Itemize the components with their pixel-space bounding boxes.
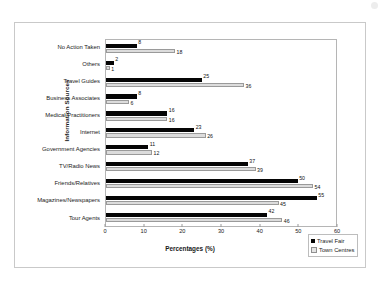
- bar-wrapper: 23: [106, 128, 336, 132]
- bar-value-label: 16: [169, 118, 175, 123]
- x-tick-label: 20: [179, 228, 185, 234]
- bar-value-label: 8: [138, 91, 141, 96]
- category-label: Travel Guides: [29, 73, 103, 90]
- legend-item[interactable]: Travel Fair: [311, 237, 354, 246]
- bar-group: 2326: [106, 125, 336, 142]
- bar-value-label: 37: [249, 159, 255, 164]
- bar-value-label: 26: [207, 134, 213, 139]
- bar-travel-fair: [106, 44, 137, 48]
- bar-wrapper: 8: [106, 44, 336, 48]
- bar-wrapper: 16: [106, 117, 336, 121]
- category-label: No Action Taken: [29, 39, 103, 56]
- bar-wrapper: 46: [106, 218, 336, 222]
- bar-value-label: 46: [284, 219, 290, 224]
- x-tick-label: 50: [295, 228, 301, 234]
- x-tick-mark: [337, 224, 338, 227]
- legend-item[interactable]: Town Centres: [311, 246, 354, 255]
- bar-town-centres: [106, 66, 110, 70]
- legend-label: Travel Fair: [317, 237, 344, 246]
- bar-town-centres: [106, 83, 244, 87]
- category-label: Tour Agents: [29, 210, 103, 227]
- legend-swatch-travel-fair: [311, 239, 315, 243]
- bar-travel-fair: [106, 162, 248, 166]
- x-tick-mark: [298, 224, 299, 227]
- bar-group: 86: [106, 91, 336, 108]
- bar-travel-fair: [106, 145, 148, 149]
- bar-wrapper: 25: [106, 78, 336, 82]
- x-tick-label: 30: [218, 228, 224, 234]
- bar-wrapper: 26: [106, 133, 336, 137]
- category-label: Friends/Relatives: [29, 176, 103, 193]
- bar-town-centres: [106, 49, 175, 53]
- bar-town-centres: [106, 201, 279, 205]
- bar-wrapper: 11: [106, 145, 336, 149]
- bar-town-centres: [106, 167, 256, 171]
- plot-area: 818212536861616232611123739505455454246: [105, 39, 337, 227]
- bar-group: 818: [106, 40, 336, 57]
- bar-travel-fair: [106, 111, 167, 115]
- bar-travel-fair: [106, 61, 114, 65]
- x-tick-label: 40: [257, 228, 263, 234]
- bar-wrapper: 1: [106, 66, 336, 70]
- bar-wrapper: 45: [106, 201, 336, 205]
- x-tick-mark: [105, 224, 106, 227]
- bar-value-label: 54: [315, 185, 321, 190]
- x-tick-mark: [221, 224, 222, 227]
- bar-value-label: 11: [150, 142, 155, 147]
- bar-value-label: 45: [280, 202, 286, 207]
- bar-travel-fair: [106, 213, 267, 217]
- bar-group: 21: [106, 57, 336, 74]
- bar-value-label: 55: [318, 193, 324, 198]
- bar-travel-fair: [106, 94, 137, 98]
- bar-wrapper: 50: [106, 179, 336, 183]
- bar-value-label: 12: [154, 151, 160, 156]
- bar-group: 5545: [106, 192, 336, 209]
- corner-artifact: [371, 2, 378, 9]
- legend-swatch-town-centres: [311, 247, 317, 253]
- x-tick-label: 10: [141, 228, 147, 234]
- bar-value-label: 42: [269, 209, 275, 214]
- category-label: Others: [29, 56, 103, 73]
- chart-figure: Information Sources No Action TakenOther…: [14, 22, 366, 268]
- bar-value-label: 6: [131, 101, 134, 106]
- bar-group: 2536: [106, 74, 336, 91]
- bar-value-label: 2: [115, 57, 118, 62]
- bar-group: 1112: [106, 141, 336, 158]
- x-tick-mark: [143, 224, 144, 227]
- bar-town-centres: [106, 150, 152, 154]
- bar-value-label: 16: [169, 108, 175, 113]
- category-label: Business Associates: [29, 90, 103, 107]
- bar-value-label: 36: [246, 84, 252, 89]
- bar-wrapper: 54: [106, 184, 336, 188]
- bar-wrapper: 39: [106, 167, 336, 171]
- category-label: Magazines/Newspapers: [29, 193, 103, 210]
- bar-wrapper: 36: [106, 83, 336, 87]
- bar-rows: 818212536861616232611123739505455454246: [106, 40, 336, 226]
- bar-town-centres: [106, 117, 167, 121]
- bar-wrapper: 12: [106, 150, 336, 154]
- category-label: Government Agencies: [29, 142, 103, 159]
- bar-wrapper: 37: [106, 162, 336, 166]
- bar-wrapper: 8: [106, 94, 336, 98]
- bar-group: 3739: [106, 158, 336, 175]
- bar-travel-fair: [106, 179, 298, 183]
- bar-value-label: 1: [111, 67, 114, 72]
- bar-value-label: 23: [196, 125, 202, 130]
- bar-wrapper: 42: [106, 213, 336, 217]
- x-axis-ticks: 0102030405060: [105, 228, 337, 240]
- x-tick-mark: [182, 224, 183, 227]
- bar-wrapper: 6: [106, 100, 336, 104]
- bar-group: 5054: [106, 175, 336, 192]
- bar-wrapper: 18: [106, 49, 336, 53]
- bar-value-label: 50: [299, 176, 305, 181]
- category-label: Medical Practitioners: [29, 107, 103, 124]
- bar-town-centres: [106, 218, 282, 222]
- bar-value-label: 8: [138, 40, 141, 45]
- bar-town-centres: [106, 100, 129, 104]
- bar-value-label: 39: [257, 168, 263, 173]
- category-label: Internet: [29, 124, 103, 141]
- bar-wrapper: 2: [106, 61, 336, 65]
- bar-town-centres: [106, 184, 313, 188]
- bar-value-label: 25: [203, 74, 209, 79]
- category-label: TV/Radio News: [29, 159, 103, 176]
